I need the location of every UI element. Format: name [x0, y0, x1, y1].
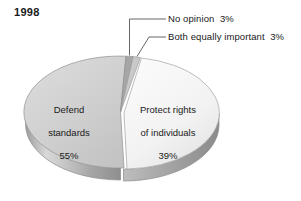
slice-label-defend-standards: Defend standards 55% — [32, 92, 106, 173]
pie-chart-figure: 1998 No opinion 3% Both equally importan… — [0, 0, 301, 201]
slice-label-protect-line2: of individuals — [126, 127, 210, 139]
slice-label-defend-line2: standards — [32, 127, 106, 139]
slice-label-protect-line1: Protect rights — [126, 104, 210, 116]
leader-line-both-equally-important — [137, 37, 166, 57]
slice-label-protect-value: 39% — [126, 150, 210, 162]
chart-title-year: 1998 — [14, 6, 40, 18]
slice-label-defend-value: 55% — [32, 150, 106, 162]
slice-label-protect-rights: Protect rights of individuals 39% — [126, 92, 210, 173]
callout-label-no-opinion: No opinion 3% — [168, 13, 234, 24]
callout-label-both-equally-important: Both equally important 3% — [168, 31, 284, 42]
slice-label-defend-line1: Defend — [32, 104, 106, 116]
